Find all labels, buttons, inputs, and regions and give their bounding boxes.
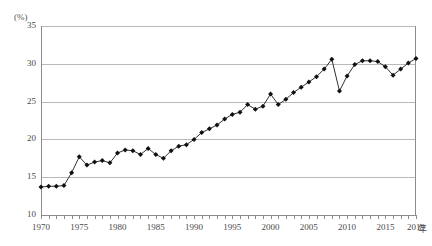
x-axis-tick-label: 1990 (185, 222, 203, 232)
gridline (41, 26, 416, 27)
x-axis-tick (179, 215, 180, 219)
x-axis-tick (140, 215, 141, 219)
x-axis-tick (72, 215, 73, 219)
x-axis-tick (202, 215, 203, 219)
x-axis-tick (393, 215, 394, 219)
x-axis-tick (263, 215, 264, 219)
x-axis-tick-label: 1985 (147, 222, 165, 232)
x-axis-tick-label: 2005 (300, 222, 318, 232)
x-axis-tick (401, 215, 402, 219)
x-axis-tick (248, 215, 249, 219)
x-axis-tick (240, 215, 241, 219)
x-axis-tick (133, 215, 134, 219)
y-axis-tick-label: 30 (27, 59, 36, 68)
x-axis-tick (408, 215, 409, 219)
x-axis-tick (163, 215, 164, 219)
x-axis-tick (339, 215, 340, 219)
x-axis-tick-label: 1975 (70, 222, 88, 232)
x-axis-tick-label: 2015 (376, 222, 394, 232)
x-axis-tick (294, 215, 295, 219)
x-axis-tick (301, 215, 302, 219)
y-axis-tick-label: 15 (27, 172, 36, 181)
x-axis-tick-label: 1995 (223, 222, 241, 232)
x-axis-tick (171, 215, 172, 219)
x-axis-tick (110, 215, 111, 219)
x-axis-tick (194, 215, 195, 219)
x-axis-tick (378, 215, 379, 219)
x-axis-tick (49, 215, 50, 219)
x-axis-tick (64, 215, 65, 219)
x-axis-tick (355, 215, 356, 219)
x-axis-tick (232, 215, 233, 219)
x-axis-tick (148, 215, 149, 219)
y-axis-tick-labels: 353025201510 (0, 0, 36, 246)
x-axis-tick (41, 215, 42, 219)
y-axis-tick-label: 25 (27, 97, 36, 106)
x-axis-tick (209, 215, 210, 219)
x-axis-tick (56, 215, 57, 219)
gridline (41, 64, 416, 65)
x-axis-tick-label: 1980 (109, 222, 127, 232)
plot-area (41, 26, 416, 215)
x-axis-tick (217, 215, 218, 219)
gridline (41, 177, 416, 178)
x-axis-tick (125, 215, 126, 219)
x-axis-tick (286, 215, 287, 219)
x-axis-tick (370, 215, 371, 219)
y-axis-tick-label: 10 (27, 210, 36, 219)
x-axis-tick (102, 215, 103, 219)
x-axis-tick-label: 2010 (338, 222, 356, 232)
x-axis-tick (324, 215, 325, 219)
x-axis-tick-label: 2019 (407, 222, 425, 232)
x-axis-tick (225, 215, 226, 219)
line-chart: (%) 353025201510 年 197019751980198519901… (0, 0, 432, 246)
x-axis-tick (87, 215, 88, 219)
y-axis-line (41, 26, 42, 216)
x-axis-tick (118, 215, 119, 219)
x-axis-line (41, 215, 416, 216)
x-axis-tick (255, 215, 256, 219)
x-axis-tick (416, 215, 417, 219)
x-axis-tick (278, 215, 279, 219)
x-axis-tick-label: 1970 (32, 222, 50, 232)
y-axis-tick-label: 20 (27, 134, 36, 143)
gridline (41, 102, 416, 103)
y-axis-tick-label: 35 (27, 21, 36, 30)
gridline (41, 139, 416, 140)
x-axis-tick (317, 215, 318, 219)
x-axis-tick (347, 215, 348, 219)
x-axis-tick (332, 215, 333, 219)
x-axis-tick (156, 215, 157, 219)
x-axis-tick (271, 215, 272, 219)
x-axis-tick (362, 215, 363, 219)
x-axis-tick (186, 215, 187, 219)
plot-right-border (415, 26, 416, 216)
x-axis-tick (95, 215, 96, 219)
x-axis-tick (79, 215, 80, 219)
x-axis-tick-label: 2000 (262, 222, 280, 232)
x-axis-tick (385, 215, 386, 219)
x-axis-tick (309, 215, 310, 219)
